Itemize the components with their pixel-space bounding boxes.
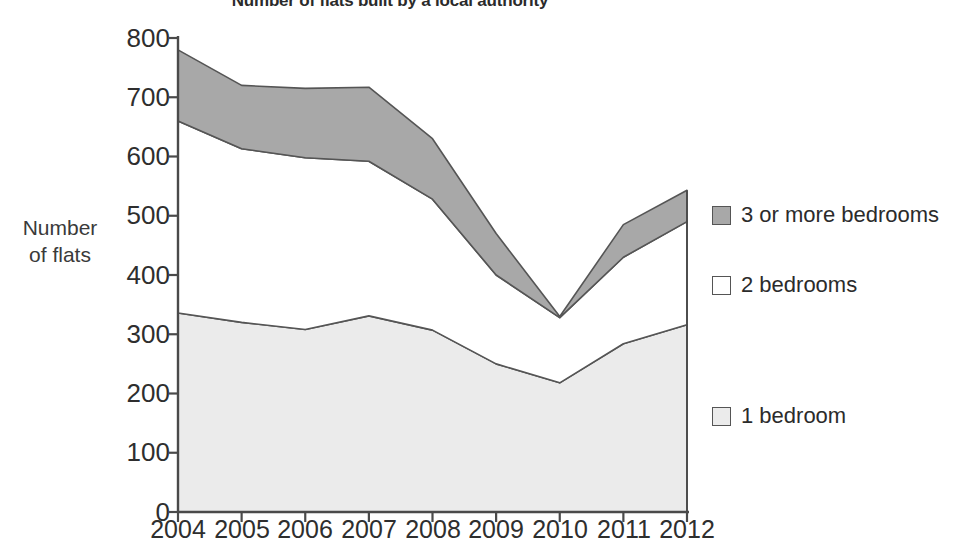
stacked-areas-group [178, 50, 687, 512]
chart-container: Number of flats built by a local authori… [0, 0, 954, 549]
plot-area [0, 0, 954, 549]
